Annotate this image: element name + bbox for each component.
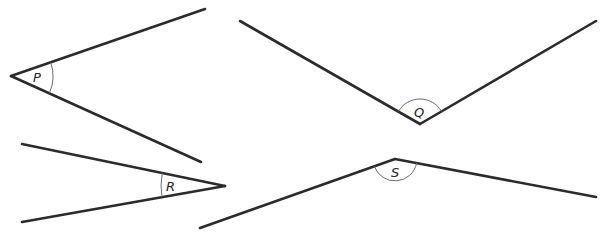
angle-s-label: S — [391, 165, 399, 180]
angle-r-ray-upper — [22, 144, 225, 186]
angle-q-label: Q — [414, 105, 424, 120]
angle-p-ray-lower — [11, 76, 201, 162]
angle-s: S — [200, 159, 596, 228]
angle-s-ray-left — [200, 159, 395, 228]
angle-p-label: P — [33, 70, 41, 85]
angle-q: Q — [240, 21, 596, 124]
angle-p: P — [11, 9, 205, 162]
angle-p-arc — [49, 62, 53, 93]
angle-q-ray-right — [420, 21, 596, 124]
angle-p-ray-upper — [11, 9, 205, 76]
angle-r-ray-lower — [22, 186, 225, 222]
angle-q-ray-left — [240, 21, 420, 124]
angle-r-label: R — [166, 179, 175, 194]
angle-diagram: P Q R S — [0, 0, 601, 232]
angle-s-ray-right — [395, 159, 596, 197]
angle-r-arc — [161, 173, 162, 197]
angle-r: R — [22, 144, 225, 222]
